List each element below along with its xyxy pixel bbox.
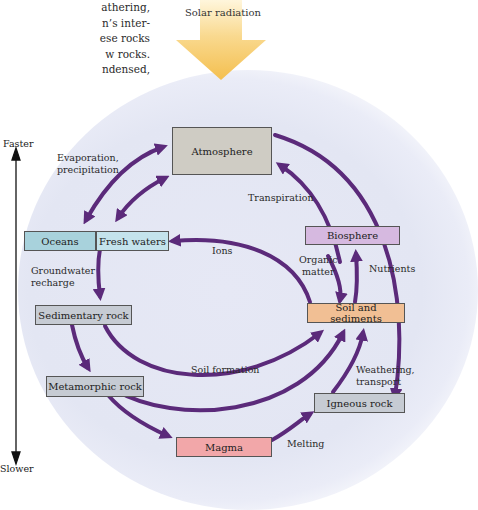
soil-and-sediments-box: Soil and sediments [307, 303, 405, 323]
melting-label: Melting [287, 438, 324, 450]
oceans-box: Oceans [24, 231, 96, 251]
fresh-waters-box: Fresh waters [96, 231, 169, 251]
label-line: Groundwater [31, 265, 95, 277]
label-line: Weathering, [356, 364, 415, 376]
atmosphere-box: Atmosphere [172, 127, 272, 175]
organic-matter-label: Organic matter [299, 254, 338, 278]
label-line: transport [356, 376, 415, 388]
axis-slower-label: Slower [0, 463, 34, 474]
label-line: recharge [31, 277, 95, 289]
sedimentary-rock-box: Sedimentary rock [35, 305, 132, 325]
label-line: Evaporation, [57, 152, 119, 164]
weathering-transport-label: Weathering, transport [356, 364, 415, 388]
axis-faster-label: Faster [3, 138, 33, 149]
biosphere-box: Biosphere [305, 226, 400, 245]
magma-box: Magma [176, 437, 272, 457]
label-line: Organic [299, 254, 338, 266]
label-line: precipitation [57, 164, 119, 176]
evaporation-precipitation-label: Evaporation, precipitation [57, 152, 119, 176]
nutrients-label: Nutrients [369, 263, 415, 275]
groundwater-recharge-label: Groundwater recharge [31, 265, 95, 289]
ions-label: Ions [212, 245, 232, 257]
igneous-rock-box: Igneous rock [314, 393, 405, 413]
transpiration-label: Transpiration [248, 192, 314, 204]
label-line: matter [299, 266, 338, 278]
metamorphic-rock-box: Metamorphic rock [46, 376, 144, 397]
soil-formation-label: Soil formation [191, 364, 259, 376]
